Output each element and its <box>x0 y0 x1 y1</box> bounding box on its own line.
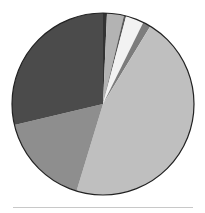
pie-chart <box>0 0 205 213</box>
baseline-divider <box>13 207 193 208</box>
